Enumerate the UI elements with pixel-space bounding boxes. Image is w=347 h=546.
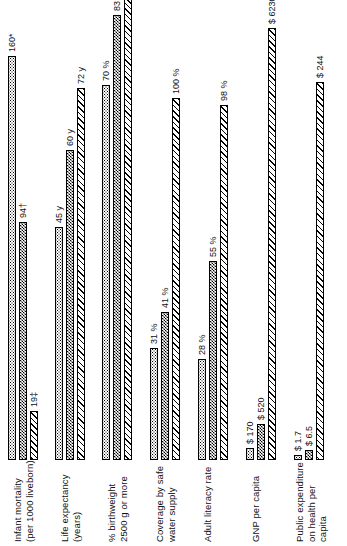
bar-water-supply-least-developed xyxy=(150,348,158,460)
bar-value-birthweight-other-developing: 83 % xyxy=(113,0,122,11)
bar-value-adult-literacy-least-developed: 28 % xyxy=(198,334,207,355)
bar-water-supply-developed xyxy=(172,98,180,460)
bar-value-birthweight-least-developed: 70 % xyxy=(102,60,111,81)
bar-life-expectancy-developed xyxy=(77,88,85,460)
bar-value-health-expenditure-least-developed: $ 1.7 xyxy=(294,431,303,451)
rotated-figure-stage: Infant mortality (per 1000 liveborn) 160… xyxy=(0,0,347,546)
group-label-infant-mortality: Infant mortality (per 1000 liveborn) xyxy=(12,460,35,542)
bar-gnp-other-developing xyxy=(257,424,265,460)
bar-water-supply-other-developing xyxy=(161,312,169,460)
group-label-gnp-per-capita: GNP per capita xyxy=(250,476,262,542)
bar-value-infant-mortality-other-developing: 94† xyxy=(19,203,28,218)
bar-value-health-expenditure-other-developing: $ 6.5 xyxy=(305,426,314,446)
bar-value-gnp-developed: $ 6230 xyxy=(268,0,277,24)
bar-adult-literacy-least-developed xyxy=(198,359,206,460)
bar-value-gnp-least-developed: $ 170 xyxy=(246,421,255,444)
bar-value-adult-literacy-developed: 98 % xyxy=(220,80,229,101)
bar-health-expenditure-developed xyxy=(316,82,324,460)
bar-life-expectancy-least-developed xyxy=(55,227,63,460)
bar-infant-mortality-other-developing xyxy=(19,222,27,460)
bar-value-gnp-other-developing: $ 520 xyxy=(257,397,266,420)
bar-birthweight-least-developed xyxy=(102,85,110,460)
group-label-life-expectancy: Life expectancy (years) xyxy=(59,474,82,542)
bar-value-infant-mortality-least-developed: 160* xyxy=(8,33,17,52)
bar-life-expectancy-other-developing xyxy=(66,150,74,460)
bar-value-life-expectancy-other-developing: 60 y xyxy=(66,129,75,146)
bar-health-expenditure-other-developing xyxy=(305,450,313,460)
bar-value-health-expenditure-developed: $ 244 xyxy=(316,55,325,78)
bar-infant-mortality-developed xyxy=(30,411,38,460)
group-label-public-health-expenditure: Public expenditure on health per capita xyxy=(294,462,329,542)
bar-value-life-expectancy-developed: 72 y xyxy=(77,67,86,84)
bar-adult-literacy-developed xyxy=(220,105,228,460)
bar-chart: Infant mortality (per 1000 liveborn) 160… xyxy=(0,0,347,546)
bar-value-water-supply-developed: 100 % xyxy=(172,68,181,94)
bar-adult-literacy-other-developing xyxy=(209,261,217,460)
bar-value-water-supply-least-developed: 31 % xyxy=(150,323,159,344)
bar-birthweight-developed xyxy=(124,0,132,460)
bar-health-expenditure-least-developed xyxy=(294,455,302,460)
group-label-birthweight: % birthweight 2500 g or more xyxy=(106,476,129,542)
bar-value-adult-literacy-other-developing: 55 % xyxy=(209,236,218,257)
bar-gnp-developed xyxy=(268,28,276,460)
bar-birthweight-other-developing xyxy=(113,15,121,460)
group-label-water-supply: Coverage by safe water supply xyxy=(154,466,177,542)
group-label-adult-literacy: Adult literacy rate xyxy=(202,467,214,542)
bar-value-water-supply-other-developing: 41 % xyxy=(161,287,170,308)
bar-value-infant-mortality-developed: 19‡ xyxy=(30,392,39,407)
bar-gnp-least-developed xyxy=(246,448,254,460)
bar-infant-mortality-least-developed xyxy=(8,56,16,460)
bar-value-life-expectancy-least-developed: 45 y xyxy=(55,206,64,223)
